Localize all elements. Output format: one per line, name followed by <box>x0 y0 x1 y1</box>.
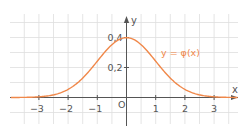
x-tick-label: 1 <box>153 103 159 114</box>
x-axis-label: x <box>232 84 238 95</box>
y-axis-arrow-icon <box>124 16 129 23</box>
x-tick-label: 2 <box>182 103 188 114</box>
x-tick-label: −3 <box>30 103 44 114</box>
y-tick-label: 0,2 <box>107 62 122 73</box>
curve-label: y = φ(x) <box>161 47 200 58</box>
normal-distribution-chart: −3−2−11230,20,4 x y O y = φ(x) <box>0 0 247 126</box>
x-tick-label: 3 <box>211 103 217 114</box>
y-axis-label: y <box>131 15 137 26</box>
origin-label: O <box>118 99 125 110</box>
x-tick-label: −2 <box>59 103 73 114</box>
x-tick-label: −1 <box>88 103 102 114</box>
